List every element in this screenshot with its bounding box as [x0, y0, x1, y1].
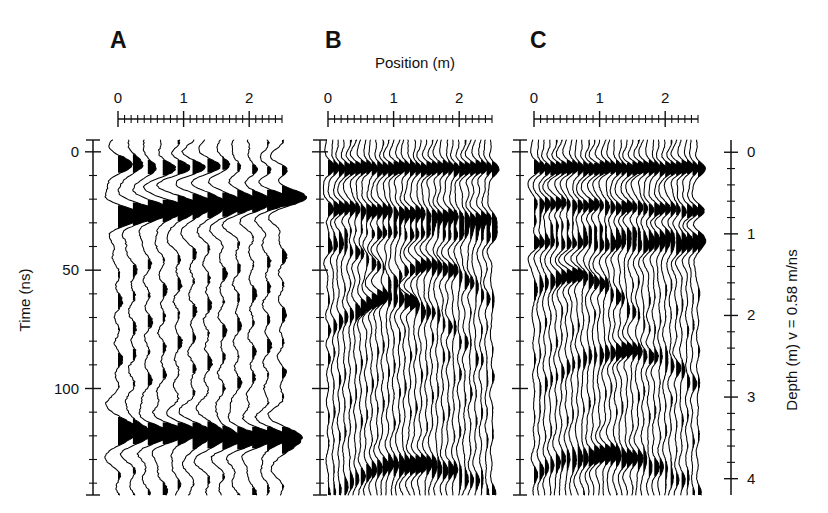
- panel-letter-a: A: [110, 27, 127, 53]
- depth-tick-label: 0: [747, 143, 755, 160]
- top-axis-title: Position (m): [375, 54, 455, 71]
- radargram-svg: 05010001234012012012 A B C Position (m) …: [0, 0, 828, 513]
- position-tick-label: 2: [455, 89, 463, 106]
- position-tick-label: 0: [114, 89, 122, 106]
- panel-letter-b: B: [325, 27, 342, 53]
- panel-letter-c: C: [530, 27, 547, 53]
- position-tick-label: 1: [389, 89, 397, 106]
- depth-tick-label: 2: [747, 306, 755, 323]
- time-tick-label: 0: [71, 143, 79, 160]
- depth-tick-label: 3: [747, 388, 755, 405]
- position-tick-label: 1: [179, 89, 187, 106]
- position-tick-label: 2: [245, 89, 253, 106]
- radargram-figure: 05010001234012012012 A B C Position (m) …: [0, 0, 828, 513]
- position-tick-label: 2: [661, 89, 669, 106]
- time-tick-label: 50: [62, 261, 79, 278]
- depth-tick-label: 4: [747, 470, 755, 487]
- position-tick-label: 0: [530, 89, 538, 106]
- time-tick-label: 100: [54, 380, 79, 397]
- depth-tick-label: 1: [747, 225, 755, 242]
- position-tick-label: 0: [324, 89, 332, 106]
- left-axis-title: Time (ns): [16, 269, 33, 332]
- right-axis-title: Depth (m) v = 0.58 m/ns: [783, 249, 800, 410]
- position-tick-label: 1: [595, 89, 603, 106]
